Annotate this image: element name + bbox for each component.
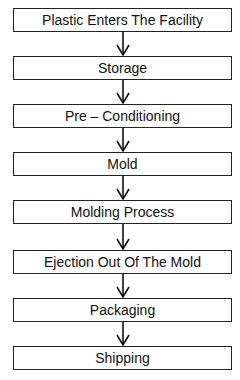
step-box-shipping: Shipping (13, 346, 232, 370)
step-box-pre-conditioning: Pre – Conditioning (13, 104, 232, 128)
step-box-ejection: Ejection Out Of The Mold (13, 250, 232, 274)
arrow-down-icon (117, 176, 129, 199)
step-label: Molding Process (71, 204, 175, 220)
arrow-down-icon (117, 32, 129, 55)
step-label: Plastic Enters The Facility (42, 12, 203, 28)
arrow-down-icon (117, 224, 129, 249)
step-box-storage: Storage (13, 56, 232, 80)
step-box-plastic-enters: Plastic Enters The Facility (13, 8, 232, 32)
step-label: Mold (107, 156, 137, 172)
step-label: Shipping (95, 350, 150, 366)
arrow-down-icon (117, 322, 129, 345)
step-label: Packaging (90, 302, 155, 318)
step-box-molding-process: Molding Process (13, 200, 232, 224)
step-label: Storage (98, 60, 147, 76)
arrow-down-icon (117, 274, 129, 297)
step-label: Pre – Conditioning (65, 108, 180, 124)
step-box-mold: Mold (13, 152, 232, 176)
step-label: Ejection Out Of The Mold (44, 254, 201, 270)
arrow-down-icon (117, 80, 129, 103)
step-box-packaging: Packaging (13, 298, 232, 322)
arrow-down-icon (117, 128, 129, 151)
